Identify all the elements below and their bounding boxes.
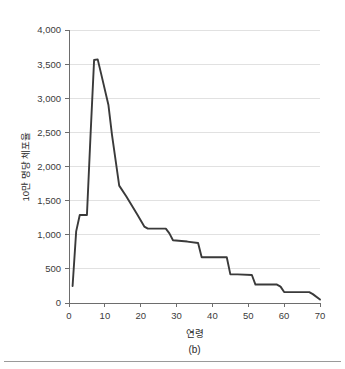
arrest-rate-by-age-chart: 0 500 1,000 1,500 2,000 2,500 3,000 3,50… bbox=[0, 0, 345, 369]
y-tick-label-4000: 4,000 bbox=[37, 24, 61, 35]
y-tick-label-3500: 3,500 bbox=[37, 59, 61, 70]
x-tick-label-60: 60 bbox=[279, 310, 290, 321]
y-axis-tick-labels: 0 500 1,000 1,500 2,000 2,500 3,000 3,50… bbox=[37, 24, 61, 308]
y-tick-label-1500: 1,500 bbox=[37, 195, 61, 206]
figure-panel: 0 500 1,000 1,500 2,000 2,500 3,000 3,50… bbox=[0, 0, 345, 369]
x-tick-label-20: 20 bbox=[135, 310, 146, 321]
x-tick-label-0: 0 bbox=[66, 310, 71, 321]
y-tick-label-2000: 2,000 bbox=[37, 161, 61, 172]
x-tick-label-10: 10 bbox=[100, 310, 111, 321]
x-tick-label-70: 70 bbox=[315, 310, 326, 321]
x-tick-label-40: 40 bbox=[207, 310, 218, 321]
y-axis-title: 10만 명당 체포율 bbox=[20, 132, 31, 202]
y-tick-label-2500: 2,500 bbox=[37, 127, 61, 138]
footer-divider bbox=[4, 361, 341, 362]
x-tick-label-30: 30 bbox=[171, 310, 182, 321]
y-tick-marks bbox=[65, 30, 69, 303]
y-tick-label-500: 500 bbox=[45, 263, 61, 274]
figure-caption: (b) bbox=[188, 344, 200, 355]
gridlines bbox=[69, 30, 320, 269]
x-tick-label-50: 50 bbox=[243, 310, 254, 321]
y-tick-label-3000: 3,000 bbox=[37, 93, 61, 104]
x-axis-title: 연령 bbox=[186, 328, 204, 339]
x-axis-tick-labels: 0 10 20 30 40 50 60 70 bbox=[66, 310, 325, 321]
y-tick-label-1000: 1,000 bbox=[37, 229, 61, 240]
y-tick-label-0: 0 bbox=[56, 297, 61, 308]
x-tick-marks bbox=[69, 303, 320, 307]
arrest-rate-series-line bbox=[73, 59, 320, 299]
